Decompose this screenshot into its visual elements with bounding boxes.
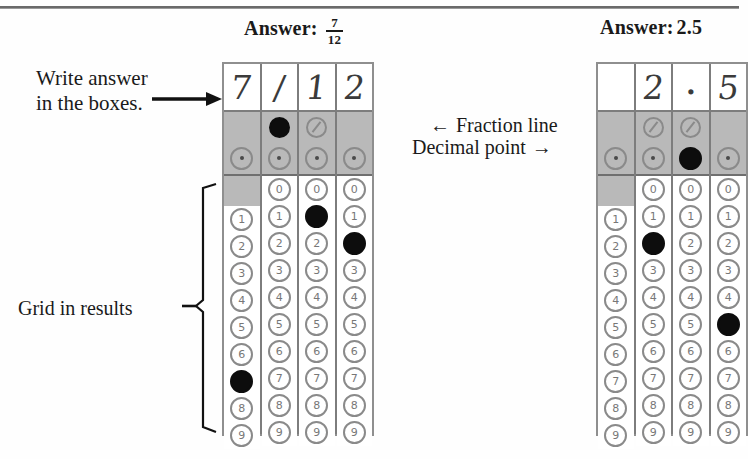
digit-bubble-0[interactable]: 0 (642, 178, 665, 201)
digit-bubble-7[interactable]: 7 (679, 367, 702, 390)
digit-bubble-9[interactable]: 9 (230, 424, 253, 447)
written-answer-box[interactable]: 5 (711, 64, 747, 112)
digit-bubble-6[interactable]: 6 (679, 340, 702, 363)
fraction-slash-bubble-icon[interactable] (306, 117, 327, 138)
digit-bubble-8[interactable]: 8 (305, 394, 328, 417)
digit-bubble-6[interactable]: 6 (230, 343, 253, 366)
digit-bubble-8[interactable]: 8 (679, 394, 702, 417)
digit-bubble-5[interactable]: 5 (717, 313, 740, 336)
written-answer-box[interactable]: . (673, 64, 709, 112)
digit-bubble-1[interactable]: 1 (604, 208, 627, 231)
digit-bubble-5[interactable]: 5 (343, 313, 366, 336)
digit-bubble-4[interactable]: 4 (305, 286, 328, 309)
digit-bubble-0[interactable]: 0 (305, 178, 328, 201)
digit-bubble-4[interactable]: 4 (642, 286, 665, 309)
digit-bubble-7[interactable]: 7 (343, 367, 366, 390)
written-answer-box[interactable]: 2 (636, 64, 672, 112)
digit-bubble-6[interactable]: 6 (642, 340, 665, 363)
digit-bubble-6[interactable]: 6 (268, 340, 291, 363)
digit-bubble-7[interactable]: 7 (305, 367, 328, 390)
digit-bubble-9[interactable]: 9 (604, 424, 627, 447)
digit-bubble-1[interactable]: 1 (679, 205, 702, 228)
digit-bubble-7[interactable]: 7 (604, 370, 627, 393)
digit-bubble-1[interactable]: 1 (642, 205, 665, 228)
digit-bubble-7[interactable]: 7 (230, 370, 253, 393)
digit-bubble-4[interactable]: 4 (268, 286, 291, 309)
digit-bubble-4[interactable]: 4 (717, 286, 740, 309)
digit-bubble-0[interactable]: 0 (268, 178, 291, 201)
digit-bubble-4[interactable]: 4 (230, 289, 253, 312)
written-answer-box[interactable]: 7 (224, 64, 260, 112)
digit-bubble-3[interactable]: 3 (268, 259, 291, 282)
gridded-response-grid-fraction[interactable]: 7123456789/01234567891012345678920123456… (222, 62, 374, 436)
digit-bubble-8[interactable]: 8 (230, 397, 253, 420)
digit-bubble-1[interactable]: 1 (230, 208, 253, 231)
gridded-response-grid-decimal[interactable]: 12345678920123456789.0123456789501234567… (596, 62, 748, 436)
digit-bubble-8[interactable]: 8 (717, 394, 740, 417)
digit-bubble-6[interactable]: 6 (343, 340, 366, 363)
digit-bubble-3[interactable]: 3 (305, 259, 328, 282)
digit-bubble-4[interactable]: 4 (343, 286, 366, 309)
digit-bubble-3[interactable]: 3 (717, 259, 740, 282)
digit-bubble-3[interactable]: 3 (604, 262, 627, 285)
digit-bubble-6[interactable]: 6 (305, 340, 328, 363)
digit-bubble-8[interactable]: 8 (268, 394, 291, 417)
digit-bubble-9[interactable]: 9 (717, 421, 740, 444)
digit-bubble-1[interactable]: 1 (717, 205, 740, 228)
digit-bubble-0[interactable]: 0 (679, 178, 702, 201)
digit-bubble-8[interactable]: 8 (343, 394, 366, 417)
digit-bubble-9[interactable]: 9 (305, 421, 328, 444)
digit-bubble-3[interactable]: 3 (642, 259, 665, 282)
digit-bubble-5[interactable]: 5 (642, 313, 665, 336)
digit-bubble-9[interactable]: 9 (343, 421, 366, 444)
digit-bubble-0[interactable]: 0 (717, 178, 740, 201)
fraction-slash-bubble-icon[interactable] (680, 117, 701, 138)
digit-bubble-7[interactable]: 7 (642, 367, 665, 390)
digit-bubble-2[interactable]: 2 (230, 235, 253, 258)
digit-bubble-3[interactable]: 3 (230, 262, 253, 285)
decimal-point-bubble-icon[interactable] (679, 147, 702, 170)
digit-bubble-8[interactable]: 8 (642, 394, 665, 417)
decimal-point-bubble-icon[interactable] (268, 147, 291, 170)
written-answer-box[interactable]: 2 (337, 64, 373, 112)
digit-bubble-2[interactable]: 2 (642, 232, 665, 255)
fraction-slash-bubble-icon[interactable] (269, 117, 290, 138)
digit-bubble-5[interactable]: 5 (679, 313, 702, 336)
decimal-point-bubble-icon[interactable] (604, 147, 627, 170)
digit-bubble-1[interactable]: 1 (343, 205, 366, 228)
written-answer-box[interactable]: / (262, 64, 298, 112)
digit-bubble-7[interactable]: 7 (717, 367, 740, 390)
written-answer-box[interactable] (598, 64, 634, 112)
digit-bubble-6[interactable]: 6 (604, 343, 627, 366)
digit-bubble-2[interactable]: 2 (343, 232, 366, 255)
digit-bubble-1[interactable]: 1 (268, 205, 291, 228)
digit-bubble-1[interactable]: 1 (305, 205, 328, 228)
digit-bubble-0[interactable]: 0 (343, 178, 366, 201)
digit-bubble-2[interactable]: 2 (268, 232, 291, 255)
fraction-slash-bubble-icon[interactable] (643, 117, 664, 138)
digit-bubble-6[interactable]: 6 (717, 340, 740, 363)
digit-bubble-4[interactable]: 4 (604, 289, 627, 312)
digit-bubble-4[interactable]: 4 (679, 286, 702, 309)
digit-bubble-2[interactable]: 2 (305, 232, 328, 255)
digit-bubble-8[interactable]: 8 (604, 397, 627, 420)
digit-bubble-3[interactable]: 3 (343, 259, 366, 282)
decimal-point-bubble-icon[interactable] (343, 147, 366, 170)
digit-bubble-2[interactable]: 2 (604, 235, 627, 258)
digit-bubble-5[interactable]: 5 (230, 316, 253, 339)
digit-bubble-9[interactable]: 9 (268, 421, 291, 444)
written-answer-box[interactable]: 1 (299, 64, 335, 112)
digit-bubble-3[interactable]: 3 (679, 259, 702, 282)
digit-bubble-9[interactable]: 9 (642, 421, 665, 444)
digit-bubble-2[interactable]: 2 (679, 232, 702, 255)
digit-bubble-9[interactable]: 9 (679, 421, 702, 444)
digit-bubble-2[interactable]: 2 (717, 232, 740, 255)
digit-bubble-7[interactable]: 7 (268, 367, 291, 390)
decimal-point-bubble-icon[interactable] (642, 147, 665, 170)
digit-bubble-5[interactable]: 5 (268, 313, 291, 336)
decimal-point-bubble-icon[interactable] (717, 147, 740, 170)
digit-bubble-5[interactable]: 5 (305, 313, 328, 336)
digit-bubble-5[interactable]: 5 (604, 316, 627, 339)
decimal-point-bubble-icon[interactable] (230, 147, 253, 170)
decimal-point-bubble-icon[interactable] (305, 147, 328, 170)
